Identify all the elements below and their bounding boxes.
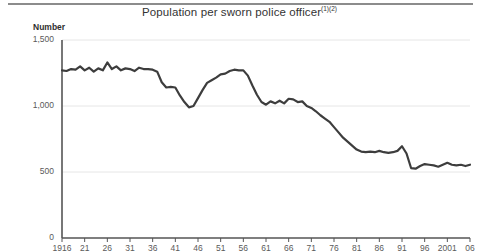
gridlines-group	[62, 40, 470, 172]
x-axis-tick-label: 66	[284, 243, 293, 251]
y-axis-tick-label: 500	[0, 166, 54, 176]
x-axis-tick-label: 71	[307, 243, 316, 251]
y-axis-tick-label: 0	[0, 232, 54, 242]
y-axis-tick-label: 1,500	[0, 34, 54, 44]
x-axis-tick-label: 81	[352, 243, 361, 251]
x-axis-tick-label: 21	[80, 243, 89, 251]
x-axis-tick-label: 31	[125, 243, 134, 251]
x-axis-tick-label: 1916	[53, 243, 72, 251]
x-axis-tick-label: 86	[375, 243, 384, 251]
x-axis-tick-label: 76	[329, 243, 338, 251]
x-axis-tick-label: 51	[216, 243, 225, 251]
x-axis-tick-label: 26	[103, 243, 112, 251]
y-axis-tick-label: 1,000	[0, 100, 54, 110]
x-axis-tick-label: 06	[465, 243, 474, 251]
chart-figure: Population per sworn police officer(1)(2…	[0, 0, 479, 251]
x-axis-tick-label: 56	[239, 243, 248, 251]
x-axis-tick-label: 41	[171, 243, 180, 251]
x-axis-tick-label: 46	[193, 243, 202, 251]
data-series-line	[62, 62, 470, 168]
x-axis-tick-label: 61	[261, 243, 270, 251]
x-axis-tick-label: 91	[397, 243, 406, 251]
chart-plot-area	[0, 0, 479, 251]
x-axis-tick-label: 96	[420, 243, 429, 251]
x-axis-tick-label: 2001	[438, 243, 457, 251]
x-axis-tick-label: 36	[148, 243, 157, 251]
